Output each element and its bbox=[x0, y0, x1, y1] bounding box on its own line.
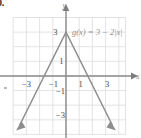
stray-mark bbox=[4, 87, 7, 89]
x-tick-neg3: −3 bbox=[22, 79, 31, 89]
x-tick-1: 1 bbox=[78, 79, 82, 89]
graph-svg: x y g(x) = 3 − 2|x| 3 1 −1 −3 −3 −1 1 3 bbox=[0, 0, 141, 138]
y-axis-label: y bbox=[62, 1, 67, 10]
x-axis bbox=[0, 73, 138, 80]
x-tick-neg1: −1 bbox=[49, 79, 58, 89]
curve-arrow-right bbox=[107, 121, 117, 131]
x-axis-label: x bbox=[135, 72, 140, 81]
x-tick-3: 3 bbox=[105, 79, 109, 89]
figure-container: 0. bbox=[0, 0, 141, 138]
y-tick-3: 3 bbox=[53, 27, 57, 37]
y-tick-1: 1 bbox=[59, 56, 63, 66]
y-tick-neg3: −3 bbox=[56, 110, 65, 120]
curve-arrow-left bbox=[16, 121, 26, 131]
function-label: g(x) = 3 − 2|x| bbox=[72, 27, 123, 37]
